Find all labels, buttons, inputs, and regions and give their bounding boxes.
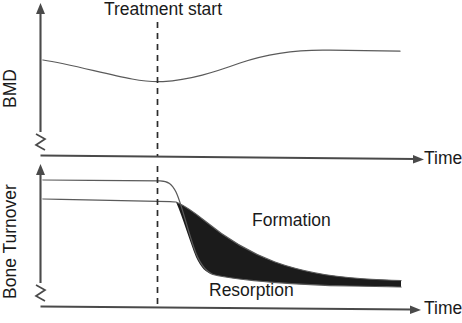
top-panel-bmd [36, 3, 424, 164]
top-y-axis [36, 3, 45, 132]
formation-series-label: Formation [252, 212, 331, 230]
time-x-axis-label-bottom: Time [424, 300, 462, 318]
bone-turnover-figure: Treatment start BMD Bone Turnover Time T… [0, 0, 462, 323]
bmd-y-axis-label: BMD [2, 69, 20, 108]
figure-canvas [0, 0, 462, 323]
time-x-axis-label-top: Time [424, 150, 462, 168]
bottom-axis-break-icon [36, 285, 45, 301]
bottom-x-axis [41, 306, 422, 315]
bone-turnover-y-axis-label: Bone Turnover [2, 184, 20, 299]
bottom-y-axis [36, 164, 45, 283]
bmd-curve [43, 50, 400, 82]
top-x-axis [41, 155, 425, 164]
top-axis-break-icon [36, 134, 45, 150]
resorption-series-label: Resorption [209, 282, 294, 300]
treatment-start-label: Treatment start [104, 1, 222, 19]
